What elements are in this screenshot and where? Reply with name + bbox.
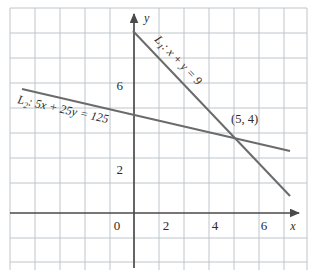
y-tick-label-2: 2 — [117, 162, 124, 177]
x-tick-label-4: 4 — [212, 218, 219, 233]
line-L1 — [133, 31, 290, 196]
x-tick-label-6: 6 — [261, 218, 268, 233]
line-label-L1: L1: x + y = 9 — [150, 32, 206, 89]
line-label-L1-group: L1: x + y = 9 — [150, 32, 206, 89]
x-tick-label-2: 2 — [163, 218, 170, 233]
y-tick-label-6: 6 — [117, 78, 124, 93]
coordinate-plane-svg: 0 2 4 6 6 2 x y (5, 4) L1: x + y = 9 L2:… — [0, 0, 314, 280]
x-axis-name: x — [289, 219, 296, 233]
line-label-L1-equation: : x + y = 9 — [159, 40, 205, 87]
axes — [10, 14, 299, 268]
graph-figure: 0 2 4 6 6 2 x y (5, 4) L1: x + y = 9 L2:… — [0, 0, 314, 280]
y-axis-name: y — [143, 11, 150, 25]
intersection-point-label: (5, 4) — [231, 112, 258, 126]
x-tick-label-0: 0 — [114, 218, 121, 233]
